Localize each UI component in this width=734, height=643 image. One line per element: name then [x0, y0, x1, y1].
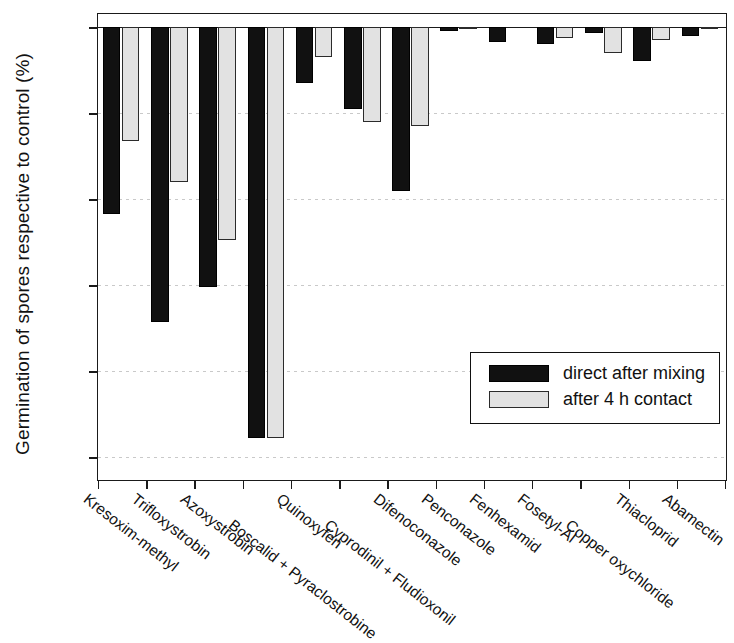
bar-direct-after-mixing — [633, 27, 651, 61]
bar-after-4h-contact — [170, 27, 188, 182]
bar-direct-after-mixing — [248, 27, 266, 438]
gridline — [98, 199, 726, 200]
legend-item: after 4 h contact — [489, 386, 719, 412]
chart-legend: direct after mixing after 4 h contact — [470, 352, 720, 424]
bar-after-4h-contact — [411, 27, 429, 126]
bar-direct-after-mixing — [585, 27, 603, 33]
bar-after-4h-contact — [267, 27, 285, 438]
bar-after-4h-contact — [315, 27, 333, 57]
legend-label: direct after mixing — [563, 363, 705, 384]
y-axis-tick — [89, 199, 98, 201]
y-axis-tick — [89, 27, 98, 29]
legend-label: after 4 h contact — [563, 389, 692, 410]
bar-after-4h-contact — [459, 27, 477, 29]
bar-after-4h-contact — [363, 27, 381, 122]
bar-direct-after-mixing — [103, 27, 121, 214]
legend-swatch-dark — [489, 365, 549, 382]
bar-direct-after-mixing — [151, 27, 169, 322]
y-axis-tick — [89, 113, 98, 115]
bar-direct-after-mixing — [537, 27, 555, 44]
legend-item: direct after mixing — [489, 360, 719, 386]
bar-after-4h-contact — [122, 27, 140, 141]
y-axis-title: Germination of spores respective to cont… — [12, 19, 34, 489]
bar-after-4h-contact — [652, 27, 670, 40]
bar-direct-after-mixing — [440, 27, 458, 31]
bar-direct-after-mixing — [489, 27, 507, 42]
bar-direct-after-mixing — [392, 27, 410, 191]
y-axis-tick — [89, 285, 98, 287]
bar-direct-after-mixing — [199, 27, 217, 287]
bar-direct-after-mixing — [296, 27, 314, 83]
bar-direct-after-mixing — [344, 27, 362, 109]
bar-after-4h-contact — [556, 27, 574, 38]
y-axis-tick — [89, 371, 98, 373]
bar-after-4h-contact — [701, 27, 719, 29]
bar-direct-after-mixing — [682, 27, 700, 36]
bar-after-4h-contact — [604, 27, 622, 53]
x-axis-labels: Kresoxim-methylTrifloxystrobinAzoxystrob… — [97, 486, 727, 634]
legend-swatch-light — [489, 391, 549, 408]
gridline — [98, 285, 726, 286]
y-axis-tick — [89, 457, 98, 459]
gridline — [98, 457, 726, 458]
bar-after-4h-contact — [218, 27, 236, 240]
